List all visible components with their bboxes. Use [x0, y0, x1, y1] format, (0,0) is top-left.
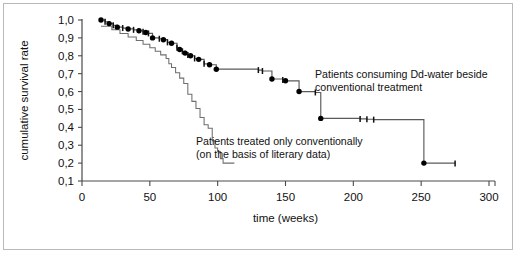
annotation-label: (on the basis of literary data): [196, 148, 330, 160]
y-tick-label: 0,2: [58, 157, 74, 169]
x-tick-label: 0: [79, 191, 85, 203]
event-marker: [169, 41, 174, 46]
y-tick-label: 0,7: [58, 68, 74, 80]
x-tick-label: 250: [412, 191, 431, 203]
event-marker: [182, 50, 187, 55]
x-axis-title: time (weeks): [253, 212, 318, 224]
x-tick-label: 200: [344, 191, 363, 203]
event-marker: [296, 89, 301, 94]
y-tick-label: 0,8: [58, 50, 74, 62]
figure-container: 0,10,20,30,40,50,60,70,80,91,00501001502…: [0, 0, 518, 255]
event-marker: [125, 26, 130, 31]
event-marker: [150, 35, 155, 40]
x-tick-label: 150: [276, 191, 295, 203]
y-tick-label: 1,0: [58, 14, 74, 26]
y-tick-label: 0,4: [58, 121, 75, 133]
x-tick-label: 300: [479, 191, 498, 203]
y-tick-label: 0,6: [58, 86, 74, 98]
event-marker: [106, 21, 111, 26]
event-marker: [318, 116, 323, 121]
event-marker: [269, 76, 274, 81]
event-marker: [196, 57, 201, 62]
event-marker: [136, 28, 141, 33]
y-tick-label: 0,9: [58, 32, 74, 44]
event-marker: [207, 62, 212, 67]
event-marker: [177, 47, 182, 52]
y-tick-label: 0,1: [58, 175, 74, 187]
event-marker: [161, 37, 166, 42]
x-tick-label: 100: [208, 191, 227, 203]
annotation-label: conventional treatment: [315, 81, 422, 93]
event-marker: [421, 160, 426, 165]
event-marker: [283, 78, 288, 83]
x-tick-label: 50: [143, 191, 156, 203]
y-axis-title: cumulative survival rate: [18, 40, 30, 160]
event-marker: [188, 53, 193, 58]
event-marker: [143, 30, 148, 35]
annotation-label: Patients consuming Dd-water beside: [315, 68, 488, 80]
event-marker: [98, 17, 103, 22]
y-tick-label: 0,3: [58, 139, 74, 151]
annotation-label: Patients treated only conventionally: [196, 135, 363, 147]
survival-chart: 0,10,20,30,40,50,60,70,80,91,00501001502…: [0, 0, 518, 255]
event-marker: [115, 24, 120, 29]
y-tick-label: 0,5: [58, 103, 74, 115]
event-marker: [214, 66, 219, 71]
